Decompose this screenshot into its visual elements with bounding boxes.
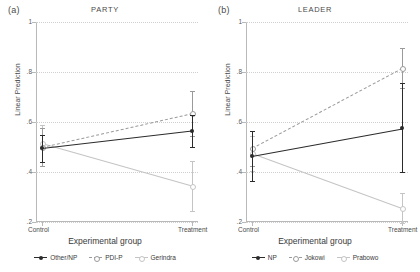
legend-item[interactable]: Other/NP [34, 254, 77, 261]
series-line [252, 68, 402, 149]
series-line [42, 113, 192, 148]
plot-area-party: .2.4.6.81 [36, 22, 198, 222]
legend-label: Gerindra [151, 254, 176, 261]
error-bar-cap [190, 147, 195, 148]
y-tick [242, 72, 246, 73]
figure: (a) PARTY Linear Prediction .2.4.6.81 Co… [0, 0, 420, 272]
panel-title-leader: LEADER [210, 5, 420, 14]
error-bar-cap [250, 131, 255, 132]
legend-label: Jokowi [305, 254, 325, 261]
error-bar-cap [40, 128, 45, 129]
error-bar-cap [400, 223, 405, 224]
y-tick-label: .2 [230, 219, 242, 226]
error-bar-cap [250, 181, 255, 182]
error-bar-cap [40, 135, 45, 136]
legend-item[interactable]: Prabowo [337, 254, 379, 261]
legend-leader: NPJokowiPrabowo [210, 254, 420, 261]
error-bar-cap [190, 211, 195, 212]
gridline [36, 172, 198, 173]
x-tick-control-a: Control [28, 226, 49, 233]
panel-party: (a) PARTY Linear Prediction .2.4.6.81 Co… [0, 0, 210, 272]
y-tick [242, 222, 246, 223]
data-point-marker [250, 154, 254, 158]
legend-label: Prabowo [353, 254, 379, 261]
y-tick-label: .2 [20, 219, 32, 226]
legend-label: PDI-P [105, 254, 122, 261]
legend-key-icon [135, 254, 148, 261]
data-point-marker [400, 126, 404, 130]
y-tick [32, 172, 36, 173]
series-line [252, 128, 402, 156]
y-tick-label: .8 [230, 69, 242, 76]
x-axis-label-a: Experimental group [0, 236, 210, 246]
y-tick-label: .8 [20, 69, 32, 76]
legend-item[interactable]: Jokowi [289, 254, 325, 261]
y-tick [242, 172, 246, 173]
data-point-marker [400, 206, 406, 212]
x-tick-treatment-b: Treatment [388, 226, 420, 233]
legend-label: NP [268, 254, 277, 261]
gridline [36, 222, 198, 223]
error-bar-cap [190, 115, 195, 116]
panel-leader: (b) LEADER Linear Prediction .2.4.6.81 C… [210, 0, 420, 272]
series-line [42, 131, 192, 149]
series-line [42, 143, 192, 186]
error-bar-cap [190, 161, 195, 162]
legend-key-icon [34, 254, 47, 261]
gridline [246, 72, 408, 73]
gridline [246, 222, 408, 223]
gridline [246, 172, 408, 173]
y-axis-label-a: Linear Prediction [14, 35, 21, 145]
error-bar-cap [400, 83, 405, 84]
error-bar-cap [400, 193, 405, 194]
y-tick [32, 122, 36, 123]
error-bar-cap [40, 162, 45, 163]
y-tick [32, 72, 36, 73]
y-tick [242, 22, 246, 23]
y-tick-label: .4 [20, 169, 32, 176]
legend-key-icon [252, 254, 265, 261]
y-tick-label: 1 [230, 19, 242, 26]
error-bar-cap [400, 48, 405, 49]
x-axis-label-b: Experimental group [210, 236, 420, 246]
plot-area-leader: .2.4.6.81 [246, 22, 408, 222]
y-axis-label-b: Linear Prediction [224, 35, 231, 145]
error-bar-cap [40, 125, 45, 126]
gridline [36, 122, 198, 123]
y-tick-label: .6 [20, 119, 32, 126]
legend-key-icon [289, 254, 302, 261]
panel-title-party: PARTY [0, 5, 210, 14]
gridline [246, 122, 408, 123]
legend-label: Other/NP [50, 254, 77, 261]
legend-item[interactable]: Gerindra [135, 254, 176, 261]
legend-item[interactable]: PDI-P [89, 254, 122, 261]
y-tick [242, 122, 246, 123]
legend-item[interactable]: NP [252, 254, 277, 261]
y-tick-label: 1 [20, 19, 32, 26]
x-tick-control-b: Control [238, 226, 259, 233]
data-point-marker [190, 184, 196, 190]
gridline [36, 72, 198, 73]
legend-key-icon [337, 254, 350, 261]
series-line [252, 153, 402, 209]
y-tick [32, 222, 36, 223]
gridline [246, 22, 408, 23]
data-point-marker [190, 129, 194, 133]
y-tick-label: .6 [230, 119, 242, 126]
legend-key-icon [89, 254, 102, 261]
error-bar-cap [190, 91, 195, 92]
legend-party: Other/NPPDI-PGerindra [0, 254, 210, 261]
error-bar-cap [40, 166, 45, 167]
gridline [36, 22, 198, 23]
error-bar-cap [400, 172, 405, 173]
y-tick [32, 22, 36, 23]
y-tick-label: .4 [230, 169, 242, 176]
